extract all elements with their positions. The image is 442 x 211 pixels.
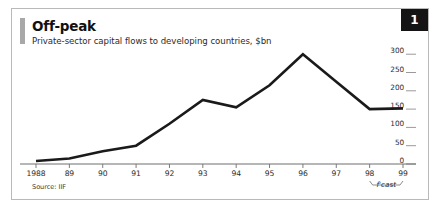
y-tick-marks [406,54,416,164]
x-axis-tick-label: 99 [388,169,418,178]
x-axis-tick-label: 92 [154,169,184,178]
y-axis-tick-label: 0 [382,156,404,165]
y-axis-tick-label: 300 [382,46,404,55]
x-axis-tick-label: 96 [288,169,318,178]
data-series-line [36,54,403,161]
y-axis-tick-label: 200 [382,83,404,92]
x-axis-tick-label: 1988 [21,169,51,178]
y-axis-tick-label: 50 [382,138,404,147]
source-note: Source: IIF [32,183,66,191]
x-axis-tick-label: 98 [355,169,385,178]
x-axis-tick-label: 93 [188,169,218,178]
y-axis-tick-label: 250 [382,65,404,74]
x-tick-marks [36,164,403,168]
y-axis-tick-label: 150 [382,101,404,110]
x-axis-tick-label: 97 [321,169,351,178]
x-axis-tick-label: 91 [121,169,151,178]
x-axis-tick-label: 95 [255,169,285,178]
x-axis-tick-label: 90 [88,169,118,178]
chart-figure: Off-peak Private-sector capital flows to… [11,8,429,200]
x-axis-tick-label: 89 [54,169,84,178]
forecast-annotation-label: f'cast [371,180,401,189]
y-axis-tick-label: 100 [382,119,404,128]
x-axis-tick-label: 94 [221,169,251,178]
